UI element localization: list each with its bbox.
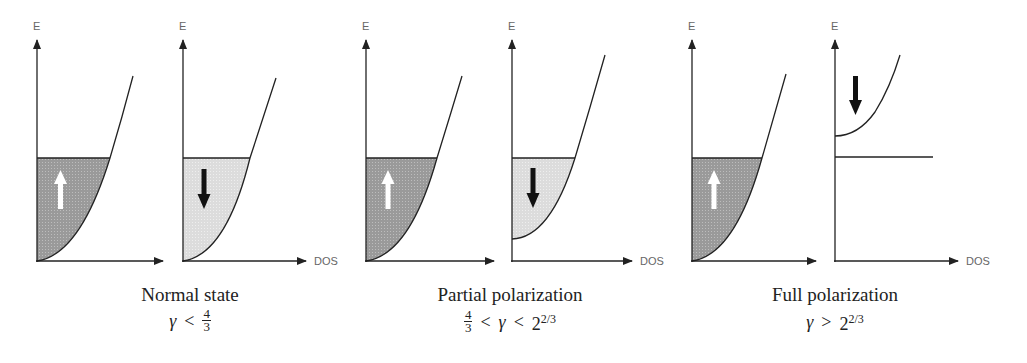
- caption-full-polarization: Full polarization γ > 22/3: [735, 284, 935, 335]
- panel-full-spin-up: E: [688, 20, 816, 262]
- energy-label: E: [33, 20, 40, 32]
- panel-normal-spin-down: E DOS: [179, 20, 338, 267]
- filled-states: [692, 158, 762, 261]
- condition: γ > 22/3: [735, 308, 935, 335]
- condition: 4 3 < γ < 22/3: [400, 308, 620, 335]
- panel-full-spin-down: E DOS: [831, 20, 990, 267]
- panel-partial-spin-up: E: [362, 20, 494, 262]
- filled-states: [183, 158, 250, 261]
- condition: γ < 4 3: [90, 308, 290, 333]
- filled-states: [512, 158, 575, 239]
- energy-label: E: [688, 20, 695, 32]
- operator: >: [821, 311, 831, 333]
- caption-title: Full polarization: [735, 284, 935, 306]
- energy-label: E: [179, 20, 186, 32]
- dos-label: DOS: [640, 255, 664, 267]
- dos-label: DOS: [314, 255, 338, 267]
- dos-diagram: E E DOS E: [0, 0, 1027, 280]
- gamma-symbol: γ: [806, 311, 813, 333]
- panel-normal-spin-up: E: [33, 20, 163, 262]
- energy-label: E: [362, 20, 369, 32]
- energy-label: E: [831, 20, 838, 32]
- caption-partial-polarization: Partial polarization 4 3 < γ < 22/3: [400, 284, 620, 335]
- dos-curve: [835, 55, 900, 136]
- operator: <: [480, 311, 490, 333]
- fraction: 4 3: [464, 309, 473, 334]
- energy-label: E: [508, 20, 515, 32]
- operator: <: [184, 310, 194, 332]
- caption-title: Partial polarization: [400, 284, 620, 306]
- filled-states: [37, 158, 110, 261]
- caption-normal-state: Normal state γ < 4 3: [90, 284, 290, 333]
- power: 22/3: [532, 308, 556, 335]
- fraction: 4 3: [202, 308, 211, 333]
- gamma-symbol: γ: [169, 310, 176, 332]
- operator: <: [514, 311, 524, 333]
- panel-partial-spin-down: E DOS: [508, 20, 664, 267]
- gamma-symbol: γ: [499, 311, 506, 333]
- dos-label: DOS: [966, 255, 990, 267]
- spin-down-arrow-icon: [849, 76, 862, 115]
- filled-states: [366, 158, 437, 261]
- power: 22/3: [839, 308, 863, 335]
- caption-title: Normal state: [90, 284, 290, 306]
